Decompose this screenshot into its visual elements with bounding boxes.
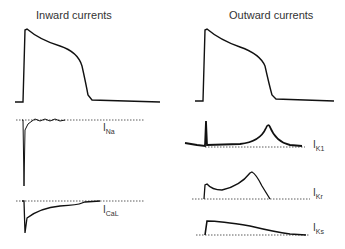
iks-trace [205, 221, 306, 235]
ical-label-sub: CaL [106, 210, 119, 217]
ik1-trace [185, 121, 302, 146]
ikr-label: IKr [313, 187, 323, 200]
ik1-label: IK1 [313, 139, 324, 152]
action-potential-right [195, 29, 334, 101]
ikr-label-sub: Kr [316, 193, 323, 200]
ical-label: ICaL [103, 204, 119, 217]
ikr-trace [204, 172, 270, 199]
iks-label-sub: Ks [316, 228, 324, 235]
ina-label: INa [103, 122, 115, 135]
ical-trace [22, 201, 100, 233]
ina-trace [22, 119, 65, 186]
iks-label: IKs [313, 222, 324, 235]
ina-label-sub: Na [106, 128, 115, 135]
traces-figure [0, 0, 345, 249]
action-potential-left [15, 29, 160, 102]
ik1-label-sub: K1 [316, 145, 325, 152]
